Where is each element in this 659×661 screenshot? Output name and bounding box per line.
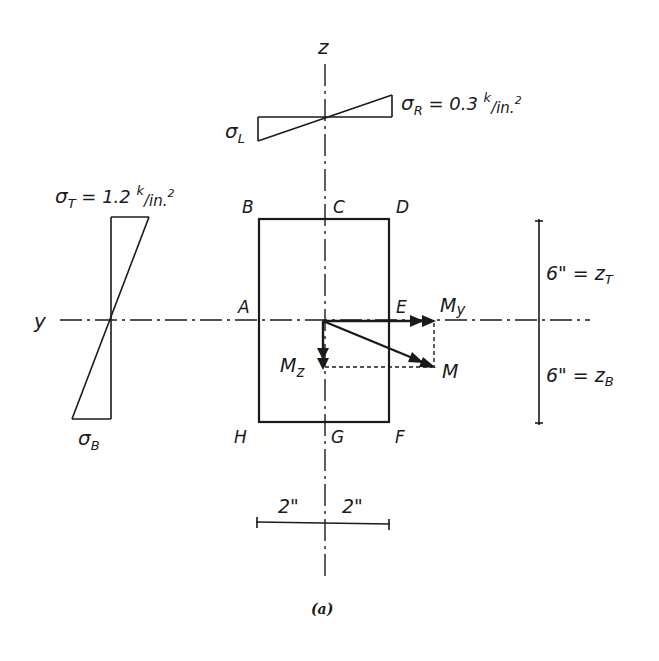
- y-axis: y: [33, 309, 590, 333]
- height-dimension: 6" = zT 6" = zB: [535, 219, 614, 425]
- sigma-l-label: σL: [225, 119, 245, 146]
- y-axis-label: y: [33, 309, 47, 333]
- corner-label-c: C: [333, 197, 345, 217]
- bending-stress-diagram: z y σL σR = 0.3 k/in.2 σT = 1.2 k/in.2 σ…: [0, 0, 659, 661]
- corner-label-d: D: [396, 197, 409, 217]
- mz-label: Mz: [280, 354, 305, 381]
- mz-arrowhead-2: [317, 358, 329, 370]
- z-axis: z: [317, 35, 329, 576]
- corner-label-g: G: [331, 427, 344, 447]
- corner-label-a: A: [237, 297, 250, 317]
- left-width-label: 2": [278, 495, 299, 517]
- my-arrowhead-1: [410, 315, 424, 327]
- my-label: My: [440, 294, 466, 319]
- sigma-b-label: σB: [78, 426, 100, 453]
- left-stress-distribution: σT = 1.2 k/in.2 σB: [55, 183, 175, 453]
- width-dimension: 2" 2": [256, 495, 390, 530]
- right-width-label: 2": [342, 495, 363, 517]
- m-label: M: [442, 360, 458, 382]
- moment-vectors: My Mz M: [280, 294, 466, 382]
- z-top-dimension: 6" = zT: [546, 262, 614, 287]
- sigma-r-label: σR = 0.3 k/in.2: [401, 90, 522, 118]
- z-axis-label: z: [317, 35, 329, 59]
- corner-label-f: F: [395, 427, 405, 447]
- figure-caption: (a): [311, 601, 333, 617]
- z-bottom-dimension: 6" = zB: [546, 364, 614, 389]
- top-stress-distribution: σL σR = 0.3 k/in.2: [225, 90, 522, 146]
- sigma-t-label: σT = 1.2 k/in.2: [55, 183, 175, 211]
- corner-label-h: H: [234, 427, 247, 447]
- corner-label-b: B: [242, 197, 254, 217]
- corner-label-e: E: [396, 297, 407, 317]
